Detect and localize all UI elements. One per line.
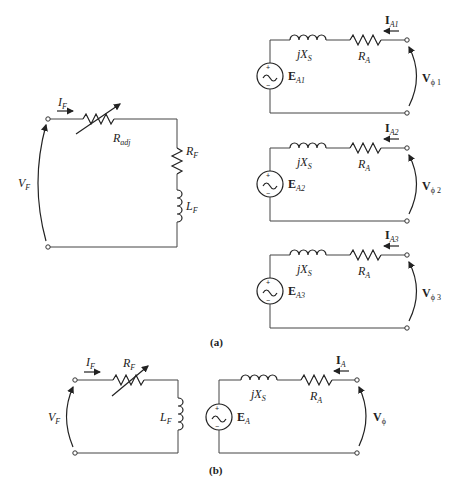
- reactance-label: jXS: [295, 262, 312, 278]
- terminal: [405, 38, 409, 42]
- armature-circuit-3: + − IA3 jXS RA EA3 Vϕ 3: [257, 228, 441, 330]
- terminal: [355, 378, 359, 382]
- terminal: [405, 219, 409, 223]
- armature-circuit-b: + − IA jXS RA EA Vϕ: [206, 353, 386, 455]
- terminal: [405, 146, 409, 150]
- field-circuit-a: IF VF Radj RF LF: [18, 95, 198, 249]
- lf-label: LF: [159, 410, 172, 426]
- svg-text:+: +: [266, 172, 270, 179]
- reactance-label: jXS: [295, 155, 312, 171]
- resistance-label: RA: [357, 49, 370, 65]
- armature-resistor: [350, 143, 381, 153]
- svg-text:−: −: [266, 297, 270, 304]
- source-label: EA2: [288, 177, 305, 193]
- synchronous-reactance-inductor: [290, 143, 326, 148]
- rf-variable-resistor: [113, 375, 144, 385]
- resistance-label: RA: [357, 157, 370, 173]
- svg-text:−: −: [266, 82, 270, 89]
- armature-resistor: [350, 250, 381, 260]
- terminal: [405, 253, 409, 257]
- terminal: [46, 117, 50, 121]
- radj-label: Radj: [112, 131, 131, 147]
- armature-circuit-2: + − IA2 jXS RA EA2 Vϕ 2: [257, 121, 441, 223]
- phase-voltage-label: Vϕ 2: [422, 179, 441, 195]
- voltage-arrow-icon: [409, 155, 417, 214]
- voltage-arrow-icon: [409, 262, 417, 321]
- caption-a: (a): [210, 336, 223, 349]
- svg-text:+: +: [266, 64, 270, 71]
- rf-resistor: [172, 148, 182, 174]
- armature-resistor: [301, 375, 332, 385]
- svg-text:+: +: [266, 279, 270, 286]
- lf-inductor: [177, 190, 182, 222]
- source-label: EA1: [288, 69, 305, 85]
- voltage-arrow-icon: [38, 125, 46, 241]
- source-label: EA: [237, 410, 250, 426]
- field-current-label: IF: [85, 355, 95, 371]
- armature-current-label: IA3: [385, 228, 399, 244]
- field-circuit-b: IF VF RF LF: [48, 355, 183, 455]
- field-current-label: IF: [57, 95, 67, 111]
- source-label: EA3: [288, 284, 305, 300]
- voltage-arrow-icon: [359, 387, 366, 446]
- lf-inductor: [178, 398, 183, 430]
- terminal: [405, 111, 409, 115]
- synchronous-reactance-inductor: [241, 375, 277, 380]
- synchronous-reactance-inductor: [290, 35, 326, 40]
- armature-circuit-1: + − IA1 jXS RA EA1 Vϕ 1: [257, 13, 441, 115]
- phase-voltage-label: Vϕ: [373, 410, 386, 426]
- phase-voltage-label: Vϕ 1: [422, 71, 441, 87]
- voltage-arrow-icon: [67, 387, 74, 447]
- field-voltage-label: VF: [48, 410, 60, 426]
- armature-current-label: IA1: [385, 13, 399, 29]
- resistance-label: RA: [357, 264, 370, 280]
- synchronous-reactance-inductor: [290, 250, 326, 255]
- terminal: [73, 378, 77, 382]
- resistance-label: RA: [309, 389, 322, 405]
- terminal: [355, 451, 359, 455]
- svg-text:−: −: [266, 190, 270, 197]
- voltage-arrow-icon: [409, 47, 417, 106]
- svg-text:+: +: [215, 405, 219, 412]
- armature-resistor: [350, 35, 381, 45]
- terminal: [73, 451, 77, 455]
- rf-label: RF: [122, 356, 135, 372]
- terminal: [405, 326, 409, 330]
- phase-voltage-label: Vϕ 3: [422, 286, 441, 302]
- terminal: [46, 245, 50, 249]
- reactance-label: jXS: [249, 387, 266, 403]
- svg-text:−: −: [215, 423, 219, 430]
- rf-label: RF: [185, 144, 198, 160]
- armature-current-label: IA2: [385, 121, 399, 137]
- armature-current-label: IA: [336, 353, 346, 369]
- reactance-label: jXS: [295, 47, 312, 63]
- field-voltage-label: VF: [18, 176, 30, 192]
- lf-label: LF: [185, 199, 198, 215]
- caption-b: (b): [209, 464, 223, 477]
